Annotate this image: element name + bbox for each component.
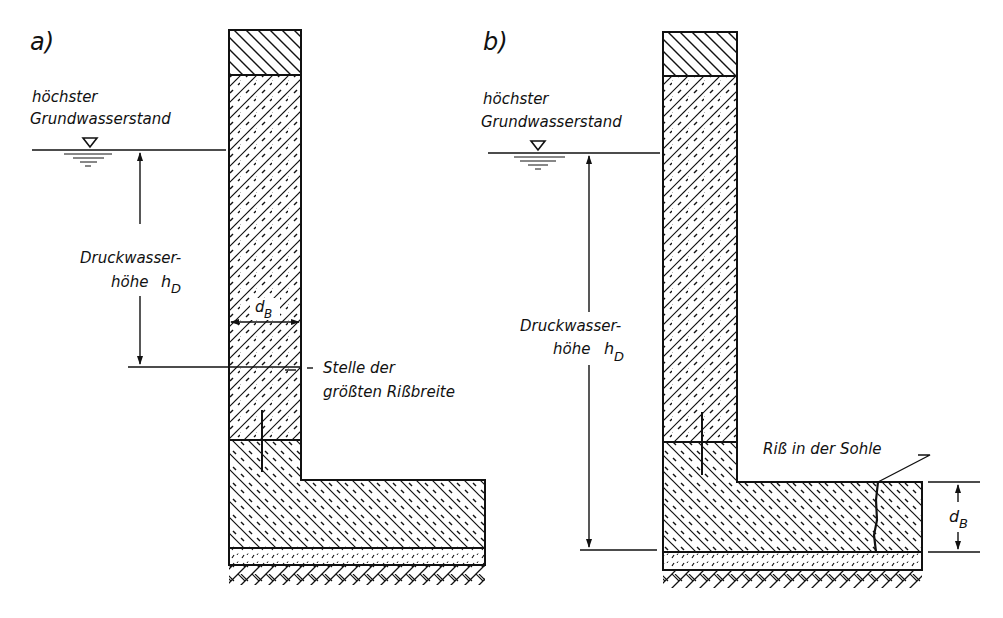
- callout-line2: größten Rißbreite: [323, 383, 455, 401]
- pressure-subscript: D: [614, 349, 624, 364]
- thickness-subscript: B: [264, 307, 272, 321]
- blinding-layer: [663, 552, 922, 570]
- callout-line1: Stelle der: [323, 359, 396, 377]
- pressure-subscript: D: [171, 281, 181, 296]
- pressure-label-line2: höhe: [553, 340, 590, 358]
- pressure-label-line2: höhe: [111, 273, 148, 291]
- thickness-subscript: B: [959, 516, 968, 531]
- wall-body: [229, 75, 301, 440]
- crack-callout-label: Riß in der Sohle: [763, 440, 882, 458]
- water-level-label-line1: höchster: [483, 90, 549, 108]
- pressure-label-line1: Druckwasser-: [520, 317, 621, 335]
- water-level-ticks-icon: [64, 154, 112, 166]
- blinding-layer: [229, 548, 485, 565]
- pressure-symbol: h: [161, 272, 171, 291]
- water-level-triangle-icon: [83, 138, 97, 147]
- panel-b: b) Riß in der Sohle höchster Grundwasser…: [481, 28, 980, 588]
- wall-body: [663, 76, 737, 442]
- wall-cap-fill: [229, 30, 301, 75]
- soil-layer: [229, 565, 485, 585]
- panel-b-label: b): [483, 28, 508, 56]
- wall-cap-fill: [663, 32, 737, 76]
- water-level-label-line2: Grundwasserstand: [30, 110, 171, 128]
- water-level-label-line2: Grundwasserstand: [481, 113, 622, 131]
- water-level-ticks-icon: [514, 157, 565, 169]
- panel-a-label: a): [30, 28, 54, 56]
- panel-a: a) höchster Grundwasserstand Druckwasser…: [30, 28, 485, 585]
- water-level-triangle-icon: [531, 141, 545, 150]
- pressure-symbol: h: [604, 339, 614, 358]
- crack-callout-leader: [878, 455, 930, 482]
- soil-layer: [663, 570, 922, 588]
- water-level-label-line1: höchster: [32, 88, 98, 106]
- base-slab: [229, 440, 485, 548]
- diagram-canvas: a) höchster Grundwasserstand Druckwasser…: [0, 0, 1003, 618]
- pressure-label-line1: Druckwasser-: [80, 249, 181, 267]
